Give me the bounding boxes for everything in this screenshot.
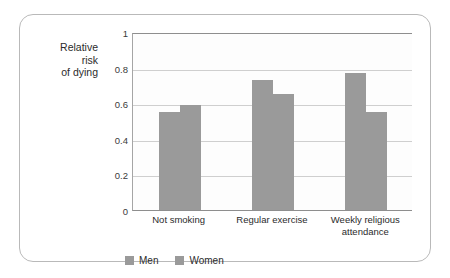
bar-men[interactable] bbox=[345, 73, 366, 210]
bars-layer bbox=[133, 34, 412, 210]
bar-men[interactable] bbox=[159, 112, 180, 210]
y-axis-tick-label: 1 bbox=[123, 28, 128, 39]
legend: MenWomen bbox=[125, 255, 224, 266]
bar-group bbox=[320, 34, 413, 210]
y-axis-tick-label: 0.4 bbox=[115, 134, 128, 145]
y-axis-title-line-3: of dying bbox=[34, 66, 98, 79]
legend-item-women[interactable]: Women bbox=[175, 255, 223, 266]
y-axis-tick-label: 0.6 bbox=[115, 99, 128, 110]
legend-label: Women bbox=[189, 255, 223, 266]
chart-card: Relative risk of dying 10.80.60.40.20 No… bbox=[19, 14, 431, 262]
x-axis-category-label-line: Weekly religious bbox=[307, 214, 424, 226]
bar-women[interactable] bbox=[273, 94, 294, 210]
y-axis-title-line-2: risk bbox=[34, 54, 98, 67]
bar-women[interactable] bbox=[180, 105, 201, 210]
legend-swatch-icon bbox=[125, 256, 134, 265]
bar-group bbox=[133, 34, 226, 210]
legend-swatch-icon bbox=[175, 256, 184, 265]
plot-area bbox=[132, 33, 412, 211]
bar-women[interactable] bbox=[366, 112, 387, 210]
bar-men[interactable] bbox=[252, 80, 273, 210]
x-axis-category-label: Weekly religiousattendance bbox=[307, 214, 424, 237]
y-axis-tick-label: 0.2 bbox=[115, 170, 128, 181]
y-axis-tick-label: 0.8 bbox=[115, 63, 128, 74]
plot-wrapper: 10.80.60.40.20 Not smokingRegular exerci… bbox=[106, 33, 412, 229]
x-axis-category-label-line: attendance bbox=[307, 226, 424, 238]
y-axis-tick-labels: 10.80.60.40.20 bbox=[106, 33, 128, 211]
legend-item-men[interactable]: Men bbox=[125, 255, 158, 266]
y-axis-title: Relative risk of dying bbox=[34, 41, 98, 79]
y-axis-title-line-1: Relative bbox=[34, 41, 98, 54]
x-axis-category-labels: Not smokingRegular exerciseWeekly religi… bbox=[132, 214, 412, 244]
legend-label: Men bbox=[139, 255, 158, 266]
bar-group bbox=[226, 34, 319, 210]
